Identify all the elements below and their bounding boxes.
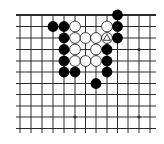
- white-stone[interactable]: [91, 44, 102, 55]
- white-stone[interactable]: [70, 33, 81, 44]
- white-stone[interactable]: [102, 21, 113, 32]
- white-stone[interactable]: [70, 56, 81, 67]
- black-stone[interactable]: [102, 56, 113, 67]
- star-point: [137, 48, 140, 51]
- black-stone[interactable]: [48, 21, 59, 32]
- black-stone[interactable]: [59, 44, 70, 55]
- black-stone[interactable]: [59, 67, 70, 78]
- black-stone[interactable]: [102, 44, 113, 55]
- black-stone[interactable]: [59, 21, 70, 32]
- black-stone[interactable]: [112, 10, 123, 21]
- black-stone[interactable]: [91, 78, 102, 89]
- black-stone[interactable]: [59, 56, 70, 67]
- white-stone[interactable]: [70, 44, 81, 55]
- white-stone[interactable]: [91, 56, 102, 67]
- black-stone[interactable]: [112, 21, 123, 32]
- white-stone[interactable]: [91, 33, 102, 44]
- star-point: [137, 115, 140, 118]
- black-stone[interactable]: [102, 67, 113, 78]
- star-point: [73, 115, 76, 118]
- white-stone[interactable]: [80, 33, 91, 44]
- black-stone[interactable]: [112, 33, 123, 44]
- white-stone[interactable]: [70, 21, 81, 32]
- black-stone[interactable]: [59, 33, 70, 44]
- black-stone[interactable]: [70, 67, 81, 78]
- white-stone[interactable]: [80, 56, 91, 67]
- go-board: [0, 0, 164, 144]
- go-board-canvas: [0, 0, 164, 144]
